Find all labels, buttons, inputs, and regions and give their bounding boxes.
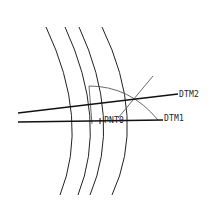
label-pnt0: PNT0: [104, 116, 124, 125]
arc-2: [65, 27, 90, 195]
arc-1: [46, 27, 72, 195]
datum-line-dtm2: [18, 94, 178, 113]
cad-diagram-canvas: DTM2 DTM1 PNT0: [0, 0, 211, 215]
label-dtm2: DTM2: [179, 90, 199, 99]
cad-sketch: DTM2 DTM1 PNT0: [0, 0, 211, 215]
label-dtm1: DTM1: [164, 114, 184, 123]
